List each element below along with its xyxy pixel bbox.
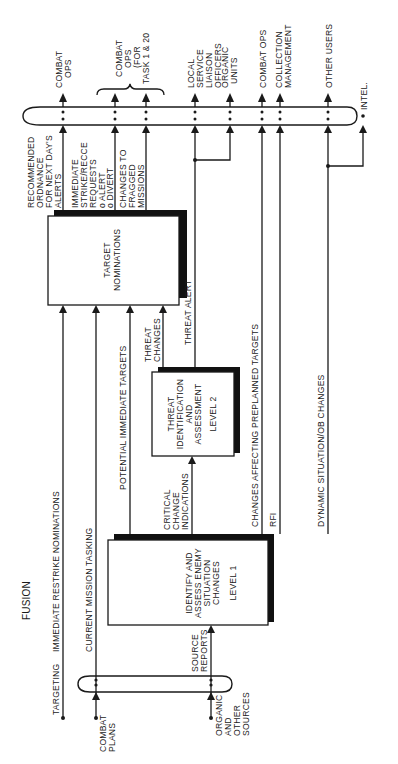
label-immediate-restrike: IMMEDIATE RESTRIKE NOMINATIONS bbox=[51, 491, 61, 652]
output-combat-ops-task: COMBAT OPS (FOR TASK 1 & 20 bbox=[114, 33, 151, 84]
svg-text:LEVEL 2: LEVEL 2 bbox=[208, 396, 218, 431]
svg-text:ASSESSMENT: ASSESSMENT bbox=[193, 383, 203, 444]
brace bbox=[97, 84, 164, 95]
input-bus bbox=[78, 676, 232, 692]
input-organic-sources: ORGANIC AND OTHER SOURCES bbox=[214, 692, 251, 736]
label-immediate-strike: IMMEDIATE STRIKE/RECCE REQUESTS o ALERT … bbox=[70, 142, 115, 208]
svg-text:NOMINATIONS: NOMINATIONS bbox=[112, 229, 122, 291]
flow-current-mission bbox=[92, 305, 100, 720]
flow-rfi bbox=[276, 125, 284, 534]
label-changes-preplanned: CHANGES AFFECTING PREPLANNED TARGETS bbox=[250, 324, 260, 527]
diagram-title: FUSION bbox=[21, 581, 32, 620]
flow-threat-alert bbox=[191, 125, 234, 367]
label-changes-fragged: CHANGES TO FRAGGED MISSIONS bbox=[118, 149, 146, 208]
svg-text:LEVEL 1: LEVEL 1 bbox=[228, 565, 238, 600]
label-current-mission: CURRENT MISSION TASKING bbox=[84, 527, 94, 652]
svg-text:CHANGES: CHANGES bbox=[211, 561, 221, 605]
label-potential-targets: POTENTIAL IMMEDIATE TARGETS bbox=[118, 345, 128, 490]
svg-text:OPS: OPS bbox=[63, 59, 73, 78]
output-other-users: OTHER USERS bbox=[324, 24, 334, 88]
output-combat-ops-1: COMBAT OPS bbox=[54, 50, 73, 88]
output-combat-ops-2: COMBAT OPS bbox=[258, 29, 268, 88]
label-rfi: RFI bbox=[268, 513, 278, 527]
label-critical-change: CRITICAL CHANGE INDICATIONS bbox=[162, 473, 190, 530]
svg-text:PLANS: PLANS bbox=[107, 723, 117, 752]
label-dynamic-situation: DYNAMIC SITUATION/OB CHANGES bbox=[316, 374, 326, 527]
svg-text:ALERTS: ALERTS bbox=[53, 173, 63, 208]
svg-text:UNITS: UNITS bbox=[229, 57, 239, 84]
output-organic-units: ORGANIC UNITS bbox=[220, 46, 239, 88]
label-threat-changes: THREAT CHANGES bbox=[143, 318, 162, 362]
fusion-diagram: FUSION IMMEDIATE RESTRIKE NOMINATIONS CU… bbox=[0, 0, 398, 764]
input-targeting: TARGETING bbox=[51, 664, 61, 715]
svg-text:INDICATIONS: INDICATIONS bbox=[180, 473, 190, 530]
svg-text:SOURCES: SOURCES bbox=[241, 692, 251, 736]
label-threat-alert: THREAT ALERT bbox=[183, 279, 193, 345]
svg-text:o DIVERT: o DIVERT bbox=[105, 167, 115, 208]
input-combat-plans: COMBAT PLANS bbox=[98, 714, 117, 752]
svg-text:MANAGEMENT: MANAGEMENT bbox=[283, 24, 293, 88]
output-intel: INTEL. bbox=[359, 82, 369, 110]
svg-text:TASK 1 & 20: TASK 1 & 20 bbox=[141, 33, 151, 84]
output-collection-mgmt: COLLECTION MANAGEMENT bbox=[274, 24, 293, 88]
flow-dynamic-situation bbox=[324, 125, 367, 534]
output-bus bbox=[23, 107, 357, 125]
svg-text:TARGET: TARGET bbox=[102, 242, 112, 278]
label-source-reports: SOURCE REPORTS bbox=[190, 629, 209, 672]
svg-text:MISSIONS: MISSIONS bbox=[136, 164, 146, 208]
svg-text:REPORTS: REPORTS bbox=[199, 629, 209, 672]
label-recommended-ordnance: RECOMMENDED ORDNANCE FOR NEXT DAY'S ALER… bbox=[26, 135, 63, 208]
output-local-service: LOCAL SERVICE LIAISON OFFICERS bbox=[186, 43, 223, 88]
svg-text:CHANGES: CHANGES bbox=[152, 318, 162, 362]
